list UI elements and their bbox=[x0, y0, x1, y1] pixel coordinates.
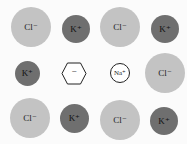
ion-label: K⁺ bbox=[159, 25, 171, 34]
chloride-ion: Cl⁻ bbox=[10, 98, 50, 138]
chloride-ion: Cl⁻ bbox=[100, 7, 140, 47]
chloride-ion: Cl⁻ bbox=[145, 53, 185, 93]
ion-label: Cl⁻ bbox=[24, 23, 38, 32]
ion-label: K⁺ bbox=[69, 114, 81, 123]
chloride-ion: Cl⁻ bbox=[100, 100, 140, 140]
ion-label: K⁺ bbox=[158, 117, 170, 126]
ion-label: Cl⁻ bbox=[113, 116, 127, 125]
ion-lattice-diagram: Cl⁻ K⁺ Cl⁻ K⁺ K⁺ − Na⁺ Cl⁻ Cl⁻ K⁺ Cl⁻ K⁺ bbox=[0, 0, 187, 144]
ion-label: Cl⁻ bbox=[23, 114, 37, 123]
ion-label: K⁺ bbox=[70, 25, 82, 34]
potassium-ion: K⁺ bbox=[62, 15, 90, 43]
potassium-ion: K⁺ bbox=[150, 107, 178, 135]
anion-hexagon-icon: − bbox=[61, 62, 87, 85]
potassium-ion: K⁺ bbox=[60, 104, 89, 133]
potassium-ion: K⁺ bbox=[151, 15, 179, 43]
potassium-ion: K⁺ bbox=[15, 61, 40, 86]
ion-label: Cl⁻ bbox=[113, 23, 127, 32]
ion-label: K⁺ bbox=[22, 69, 34, 78]
sodium-ion: Na⁺ bbox=[110, 63, 130, 83]
ion-label: Cl⁻ bbox=[158, 69, 172, 78]
chloride-ion: Cl⁻ bbox=[11, 7, 51, 47]
ion-label: Na⁺ bbox=[114, 70, 126, 77]
anion-charge: − bbox=[61, 66, 87, 76]
